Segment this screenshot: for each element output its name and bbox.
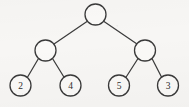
edge-root-to-left-child bbox=[54, 22, 87, 45]
tree-node-leaf-2: 2 bbox=[10, 75, 31, 96]
edge-root-to-right-child bbox=[104, 22, 137, 45]
binary-tree-diagram: 2 4 5 3 bbox=[0, 0, 189, 107]
edge-left-internal-to-leaf-4 bbox=[53, 59, 65, 79]
tree-canvas: 2 4 5 3 bbox=[0, 0, 189, 107]
node-label-leaf-4: 4 bbox=[68, 81, 73, 91]
edge-right-internal-to-leaf-3 bbox=[152, 59, 162, 79]
tree-node-leaf-5: 5 bbox=[109, 75, 130, 96]
node-group: 2 4 5 3 bbox=[10, 4, 179, 96]
node-label-leaf-3: 3 bbox=[166, 81, 171, 91]
tree-node-root bbox=[85, 4, 106, 25]
tree-node-internal-left bbox=[35, 40, 56, 61]
node-circle-internal-left bbox=[35, 40, 56, 61]
node-label-leaf-2: 2 bbox=[18, 81, 23, 91]
node-label-leaf-5: 5 bbox=[117, 81, 122, 91]
tree-node-leaf-3: 3 bbox=[158, 75, 179, 96]
tree-node-internal-right bbox=[135, 40, 156, 61]
edge-right-internal-to-leaf-5 bbox=[126, 59, 139, 79]
node-circle-root bbox=[85, 4, 106, 25]
node-circle-internal-right bbox=[135, 40, 156, 61]
edge-left-internal-to-leaf-2 bbox=[27, 59, 39, 79]
tree-node-leaf-4: 4 bbox=[60, 75, 81, 96]
